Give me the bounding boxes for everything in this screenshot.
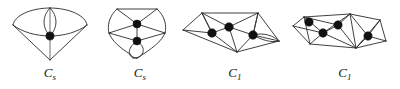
graph-4-drawing <box>290 0 400 68</box>
panel-graph-1: Cs <box>0 0 100 89</box>
graph-1-label: Cs <box>0 66 100 79</box>
graph-4-label: C1 <box>290 66 400 79</box>
graph-1-label-base: C <box>44 65 53 80</box>
graph-3-label: C1 <box>180 66 290 79</box>
panel-graph-2: Cs <box>100 0 180 89</box>
graph-1-label-subscript: s <box>53 72 57 82</box>
panel-graph-4: C1 <box>290 0 400 89</box>
marked-vertex <box>46 32 54 40</box>
marked-vertex <box>133 20 141 28</box>
marked-vertex <box>305 18 313 26</box>
graph-3-label-base: C <box>228 65 237 80</box>
marked-vertex <box>208 29 217 38</box>
graph-2-label: Cs <box>100 66 180 79</box>
marked-vertex <box>334 21 342 29</box>
marked-vertex <box>133 37 141 45</box>
panel-graph-3: C1 <box>180 0 290 89</box>
graph-3-label-subscript: 1 <box>237 72 242 82</box>
graph-4-label-base: C <box>338 65 347 80</box>
marked-vertex <box>364 32 372 40</box>
marked-vertex <box>225 23 234 32</box>
graph-4-label-subscript: 1 <box>347 72 352 82</box>
figure-root: Cs <box>0 0 400 89</box>
graph-2-label-base: C <box>134 65 143 80</box>
marked-vertex <box>319 29 327 37</box>
graph-1-drawing <box>0 0 100 68</box>
graph-2-drawing <box>100 0 180 68</box>
marked-vertex <box>249 31 258 40</box>
graph-3-drawing <box>180 0 290 68</box>
graph-2-label-subscript: s <box>143 72 147 82</box>
